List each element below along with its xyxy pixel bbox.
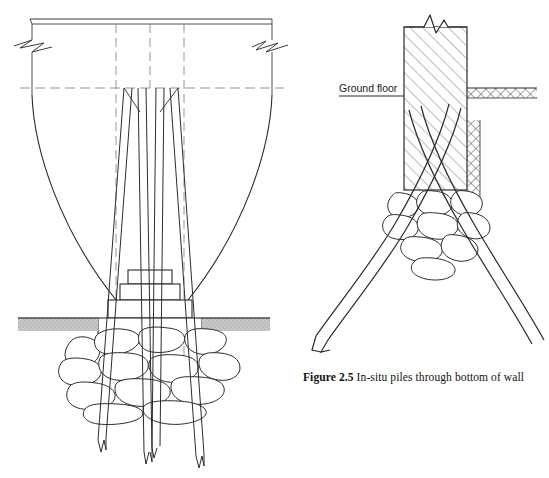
ground-floor-label: Ground floor [339, 82, 397, 94]
technical-drawing-svg [0, 0, 549, 478]
arch-curve-left [32, 95, 116, 300]
wall-top-band [30, 19, 272, 24]
figure-container: Ground floor Figure 2.5 In-situ piles th… [0, 0, 549, 478]
arch-curve-right [188, 95, 272, 300]
figure-caption-number: Figure 2.5 [303, 371, 354, 383]
break-symbol-left [14, 40, 52, 52]
figure-caption: Figure 2.5 In-situ piles through bottom … [303, 370, 543, 384]
rubble-foundation [59, 327, 240, 424]
left-elevation-drawing [14, 19, 288, 468]
wall-section-hatched [404, 27, 467, 190]
wall-outer-edges [32, 24, 272, 95]
earth-hatch-lower [467, 120, 480, 198]
figure-caption-text: In-situ piles through bottom of wall [354, 371, 524, 383]
right-section-drawing [312, 15, 544, 352]
break-symbol-right [252, 41, 288, 52]
rubble-footing [383, 191, 490, 280]
earth-hatch-upper [467, 88, 537, 98]
